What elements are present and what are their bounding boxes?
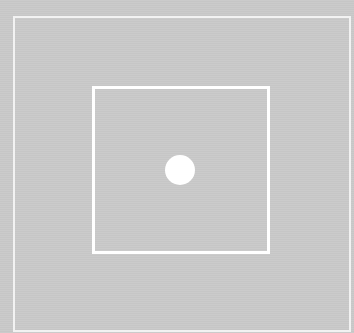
player-dot[interactable]	[165, 155, 195, 185]
